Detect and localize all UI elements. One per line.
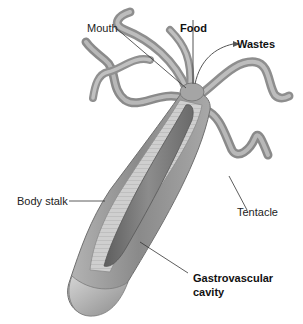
mouth-label: Mouth	[87, 22, 118, 35]
tentacle-leader	[229, 176, 247, 210]
gastrovascular-label-line2: cavity	[193, 286, 224, 299]
tentacle-label: Tentacle	[237, 206, 278, 219]
gastro-leader	[140, 242, 188, 273]
food-label: Food	[180, 22, 207, 35]
gastrovascular-label-line1: Gastrovascular	[193, 272, 273, 285]
wastes-label: Wastes	[237, 38, 275, 51]
body-stalk-label: Body stalk	[17, 195, 68, 208]
hydra-diagram: Mouth Food Wastes Body stalk Tentacle Ga…	[0, 0, 303, 324]
